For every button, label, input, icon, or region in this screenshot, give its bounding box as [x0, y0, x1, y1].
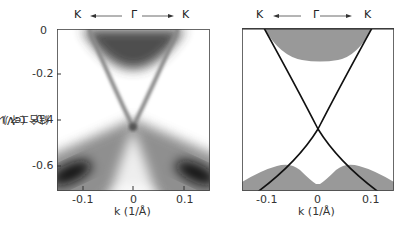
ytick-0: 0 — [40, 24, 47, 37]
right-k-label-right: K — [364, 8, 371, 21]
right-xlabel: k (1/Å) — [298, 205, 335, 218]
ytick-3: -0.6 — [32, 159, 53, 172]
left-gamma-label: Γ — [131, 8, 137, 21]
left-k-label: K — [74, 8, 81, 21]
ytick-1: -0.2 — [32, 67, 53, 80]
left-xtick-2: 0.1 — [176, 193, 194, 206]
right-gamma-label: Γ — [313, 8, 319, 21]
left-xlabel: k (1/Å) — [114, 205, 151, 218]
ytick-2: -0.4 — [32, 113, 53, 126]
y-axis-label: 結合エネルギー (eV) — [2, 60, 26, 180]
right-k-label: K — [256, 8, 263, 21]
right-xtick-2: 0.1 — [362, 193, 380, 206]
right-path-arrows — [273, 11, 373, 21]
left-k-label-right: K — [182, 8, 189, 21]
arpes-heatmap — [57, 29, 210, 191]
left-xtick-0: -0.1 — [72, 193, 93, 206]
right-xtick-0: -0.1 — [256, 193, 277, 206]
band-schematic — [242, 28, 394, 191]
